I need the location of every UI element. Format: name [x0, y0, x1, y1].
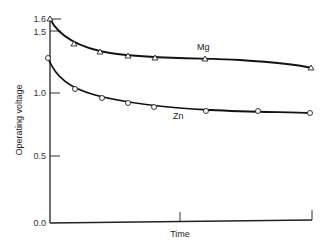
circle-marker — [308, 111, 313, 116]
mg-label: Mg — [197, 42, 210, 52]
circle-marker — [204, 109, 209, 114]
voltage-chart: 1.6 1.5 1.0 0.5 0.0 Operating voltage Ti… — [0, 0, 327, 246]
circle-marker — [126, 101, 131, 106]
circle-marker — [100, 96, 105, 101]
y-tick-label-1.5: 1.5 — [33, 27, 46, 37]
y-tick-label-1.6: 1.6 — [33, 14, 46, 24]
y-tick-label-0.5: 0.5 — [33, 151, 46, 161]
zn-markers — [46, 56, 313, 116]
zn-curve — [48, 58, 312, 113]
y-tick-label-1.0: 1.0 — [33, 88, 46, 98]
mg-curve — [50, 19, 312, 68]
y-tick-label-0.0: 0.0 — [33, 218, 46, 228]
zn-label: Zn — [173, 111, 184, 121]
circle-marker — [152, 105, 157, 110]
circle-marker — [73, 87, 78, 92]
x-axis — [50, 220, 312, 223]
y-axis-label: Operating voltage — [14, 84, 24, 155]
x-axis-label: Time — [170, 229, 190, 239]
circle-marker — [256, 109, 261, 114]
circle-marker — [46, 56, 51, 61]
